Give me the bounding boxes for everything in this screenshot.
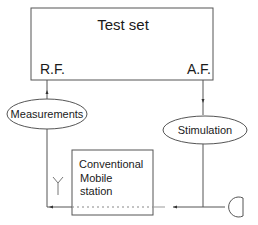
arrow-up-icon — [46, 90, 49, 94]
rf-port-label: R.F. — [40, 61, 65, 77]
arrow-left-icon — [49, 206, 53, 209]
stimulation-label: Stimulation — [178, 124, 232, 136]
measurements-label: Measurements — [11, 108, 84, 120]
arrow-down-icon — [202, 99, 205, 103]
mobile-station-line2: Mobile — [80, 172, 112, 184]
antenna-icon — [53, 177, 63, 195]
mobile-station-line3: station — [80, 185, 112, 197]
mobile-station-line1: Conventional — [79, 158, 143, 170]
test-setup-diagram: Test set R.F. A.F. Measurements Stimulat… — [0, 0, 258, 225]
arrow-left-icon — [173, 206, 177, 209]
test-set-title: Test set — [97, 16, 150, 33]
microphone-icon — [229, 197, 243, 217]
af-port-label: A.F. — [187, 61, 211, 77]
